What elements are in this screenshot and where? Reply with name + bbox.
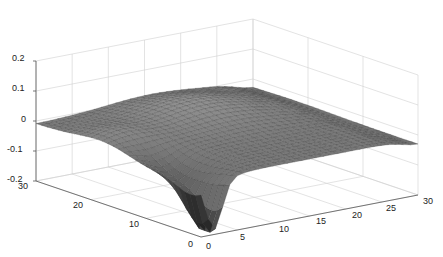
x-tick-label: 15 <box>316 216 326 226</box>
x-tick-label: 10 <box>279 224 289 234</box>
x-tick-label: 25 <box>386 203 396 213</box>
x-tick-label: 20 <box>352 210 362 220</box>
x-tick-label: 5 <box>240 232 245 242</box>
surface-plot: 0.2 0.1 0 -0.1 -0.2 30 20 10 0 0 5 10 15… <box>0 0 443 257</box>
y-tick-label: 0 <box>188 239 193 249</box>
y-tick-label: 10 <box>129 219 139 229</box>
x-tick-label: 0 <box>206 241 211 251</box>
y-tick-label: 20 <box>73 200 83 210</box>
z-tick-label: -0.1 <box>7 144 23 154</box>
z-tick-label: 0.2 <box>12 53 25 63</box>
z-tick-label: 0.1 <box>12 83 25 93</box>
x-tick-label: 30 <box>423 196 433 206</box>
y-tick-label: 30 <box>18 181 28 191</box>
z-tick-label: 0 <box>21 114 26 124</box>
